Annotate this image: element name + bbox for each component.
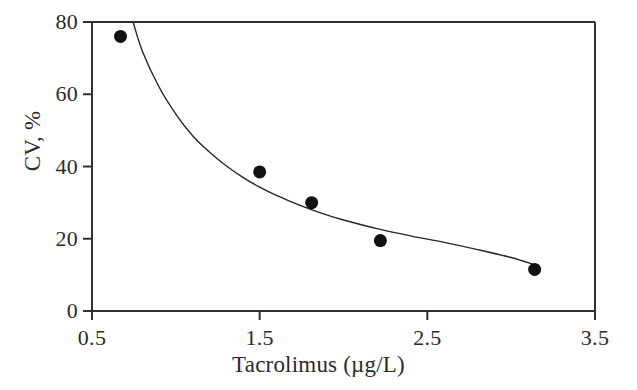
data-point <box>305 196 318 209</box>
x-tick-label: 1.5 <box>245 325 273 351</box>
x-tick-label: 2.5 <box>413 325 441 351</box>
x-axis-title: Tacrolimus (µg/L) <box>0 352 637 378</box>
y-tick-label: 80 <box>55 9 78 35</box>
data-point-markers <box>114 30 541 276</box>
y-tick-label: 60 <box>55 81 78 107</box>
y-axis-ticks <box>83 22 92 311</box>
x-tick-label: 0.5 <box>78 325 106 351</box>
fitted-curve <box>133 22 535 265</box>
y-tick-label: 20 <box>55 226 78 252</box>
y-tick-label: 40 <box>55 154 78 180</box>
chart-figure: 020406080 0.51.52.53.5 Tacrolimus (µg/L)… <box>0 0 637 390</box>
y-axis-title: CV, % <box>20 86 46 196</box>
data-point <box>253 165 266 178</box>
x-tick-label: 3.5 <box>581 325 609 351</box>
y-tick-label: 0 <box>67 298 78 324</box>
axis-frame <box>92 22 595 311</box>
x-axis-ticks <box>92 311 595 320</box>
data-point <box>114 30 127 43</box>
data-point <box>528 263 541 276</box>
data-point <box>374 234 387 247</box>
